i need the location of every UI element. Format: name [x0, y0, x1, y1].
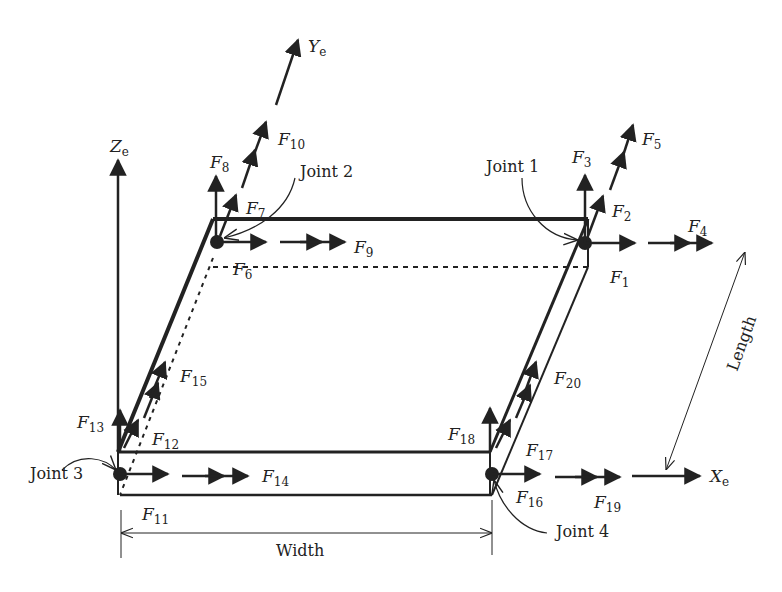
- label-f16: F16: [515, 487, 543, 510]
- axes: [118, 40, 700, 476]
- joint-1-label: Joint 1: [484, 157, 539, 176]
- joints: [113, 235, 592, 481]
- length-label: Length: [723, 313, 760, 373]
- force-arrow-f7: [220, 195, 236, 236]
- label-f20: F20: [553, 368, 581, 391]
- label-f15: F15: [179, 366, 207, 389]
- plate-diagram: Ze Ye Xe: [0, 0, 782, 592]
- label-f9: F9: [353, 237, 373, 260]
- y-axis: [276, 40, 298, 105]
- joint-4-label: Joint 4: [554, 522, 609, 541]
- z-axis-label: Ze: [109, 136, 129, 159]
- label-f17: F17: [525, 440, 553, 463]
- force-labels: F1 F2 F3 F4 F5 F6 F7 F8 F9 F10 F11 F12 F…: [76, 129, 708, 527]
- plate-outline: [118, 219, 588, 495]
- label-f7: F7: [245, 198, 265, 221]
- label-f6: F6: [232, 259, 252, 282]
- label-f3: F3: [571, 147, 591, 170]
- label-f19: F19: [593, 492, 621, 515]
- label-f8: F8: [209, 152, 229, 175]
- label-f14: F14: [261, 466, 289, 489]
- label-f13: F13: [76, 412, 104, 435]
- label-f18: F18: [447, 424, 475, 447]
- joint-leaders: [62, 178, 578, 533]
- joint-3-label: Joint 3: [28, 464, 83, 483]
- x-axis-label: Xe: [708, 466, 729, 489]
- label-f5: F5: [641, 129, 661, 152]
- label-f12: F12: [151, 429, 179, 452]
- label-f4: F4: [687, 216, 708, 239]
- label-f11: F11: [141, 504, 169, 527]
- force-arrow-f20: [516, 385, 530, 418]
- label-f2: F2: [611, 201, 631, 224]
- y-axis-label: Ye: [308, 36, 326, 59]
- label-f1: F1: [609, 267, 629, 290]
- label-f10: F10: [277, 129, 305, 152]
- joint-2-label: Joint 2: [298, 162, 353, 181]
- force-arrow-f2: [588, 196, 603, 236]
- width-label: Width: [276, 541, 324, 560]
